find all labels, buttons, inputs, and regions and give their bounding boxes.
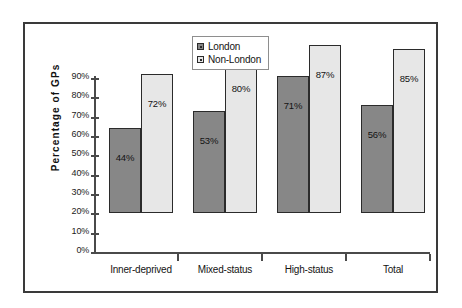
plot-area: Percentage of GPs 90% 80% 70% 60% 50% 40… [25,24,436,291]
x-tick-sep-2 [261,254,263,261]
y-tick-mark-0 [91,252,99,254]
bar-london-inner-deprived[interactable] [109,128,141,213]
y-tick-label-90: 90% [72,71,89,81]
bar-value-nonlondon-total: 85% [381,73,437,84]
y-tick-mark-10 [91,233,99,235]
x-category-label-high-status: High-status [261,264,357,275]
x-tick-sep-1 [177,254,179,261]
bar-value-nonlondon-inner-deprived: 72% [129,98,185,109]
bar-nonlondon-inner-deprived[interactable] [141,74,173,213]
x-tick-sep-3 [345,254,347,261]
y-tick-mark-80 [91,97,99,99]
x-category-label-total: Total [345,264,441,275]
y-tick-label-40: 40% [72,168,89,178]
y-axis-line [94,76,96,254]
x-category-label-inner-deprived: Inner-deprived [93,264,189,275]
legend-label-non-london: Non-London [208,54,261,65]
y-tick-label-10: 10% [72,226,89,236]
y-tick-mark-90 [91,78,99,80]
bar-value-nonlondon-high-status: 87% [297,69,353,80]
legend-swatch-london-icon [197,43,204,50]
chart-figure-frame: Percentage of GPs 90% 80% 70% 60% 50% 40… [23,22,438,293]
y-tick-mark-70 [91,117,99,119]
bar-london-total[interactable] [361,105,393,213]
chart-legend: London Non-London [192,36,269,70]
bar-london-mixed-status[interactable] [193,111,225,214]
y-tick-mark-60 [91,136,99,138]
x-category-label-mixed-status: Mixed-status [177,264,273,275]
y-tick-label-20: 20% [72,206,89,216]
legend-item-london[interactable]: London [197,40,261,53]
legend-label-london: London [208,41,240,52]
y-tick-label-50: 50% [72,148,89,158]
y-tick-label-80: 80% [72,90,89,100]
y-tick-label-30: 30% [72,187,89,197]
y-tick-mark-30 [91,194,99,196]
bar-london-high-status[interactable] [277,76,309,213]
legend-swatch-non-london-icon [197,56,204,63]
y-tick-label-60: 60% [72,129,89,139]
y-tick-label-70: 70% [72,110,89,120]
y-axis-title: Percentage of GPs [50,43,61,193]
y-tick-mark-20 [91,213,99,215]
y-tick-label-0: 0% [76,245,89,255]
bar-value-nonlondon-mixed-status: 80% [213,83,269,94]
bar-nonlondon-mixed-status[interactable] [225,58,257,213]
x-tick-sep-4 [429,254,431,261]
legend-item-non-london[interactable]: Non-London [197,53,261,66]
y-tick-mark-40 [91,175,99,177]
